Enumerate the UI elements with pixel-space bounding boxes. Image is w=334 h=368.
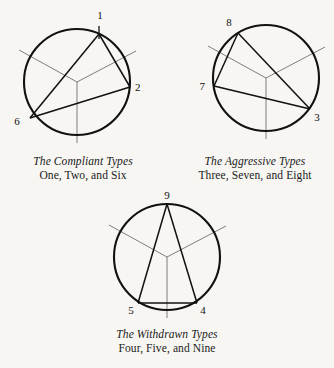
label-type-1: 1 [97,9,103,21]
edge-4-9 [167,204,197,303]
enneagram-figure: 1 2 6 8 7 3 [0,0,334,368]
spoke-upper-left [19,50,77,82]
compliant-triangle [30,34,130,118]
withdrawn-spokes [109,225,226,318]
caption-withdrawn-title: The Withdrawn Types [82,327,252,341]
withdrawn-triangle [138,204,197,303]
edge-7-8 [214,33,238,86]
caption-aggressive-title: The Aggressive Types [170,154,334,168]
diagram-aggressive: 8 7 3 [200,16,326,139]
caption-withdrawn: The Withdrawn Types Four, Five, and Nine [82,327,252,355]
edge-3-7 [214,86,310,109]
caption-aggressive: The Aggressive Types Three, Seven, and E… [170,154,334,182]
label-type-5: 5 [128,304,134,316]
caption-compliant: The Compliant Types One, Two, and Six [0,154,168,182]
caption-aggressive-subtitle: Three, Seven, and Eight [170,168,334,182]
spoke-upper-left [208,46,266,78]
label-type-6: 6 [14,115,20,127]
spoke-upper-left [109,225,167,257]
edge-9-5 [138,204,167,303]
edge-8-3 [238,33,310,109]
caption-compliant-subtitle: One, Two, and Six [0,168,168,182]
compliant-spokes [19,50,136,143]
caption-compliant-title: The Compliant Types [0,154,168,168]
label-type-9: 9 [164,189,170,201]
label-type-2: 2 [135,81,141,93]
label-type-8: 8 [226,16,232,28]
label-type-7: 7 [200,80,206,92]
diagram-compliant: 1 2 6 [14,9,140,143]
edge-2-6 [30,87,130,118]
aggressive-triangle [214,33,310,109]
diagram-withdrawn: 9 5 4 [109,189,226,318]
caption-withdrawn-subtitle: Four, Five, and Nine [82,341,252,355]
enneagram-diagram-canvas: 1 2 6 8 7 3 [0,0,334,368]
label-type-3: 3 [314,111,320,123]
label-type-4: 4 [200,304,206,316]
